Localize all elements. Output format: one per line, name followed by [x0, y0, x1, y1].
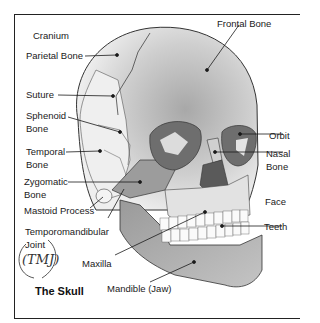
label-sphenoid-bone-1: Sphenoid — [26, 110, 66, 122]
label-face: Face — [265, 196, 286, 208]
label-zygomatic-bone-2: Bone — [24, 189, 46, 201]
label-temporal-bone-2: Bone — [26, 159, 48, 171]
label-temporal-bone-1: Temporal — [26, 146, 65, 158]
label-mandible: Mandible (Jaw) — [107, 283, 171, 295]
label-tmj-1: Temporomandibular — [25, 226, 109, 238]
label-nasal-bone-1: Nasal — [266, 148, 290, 160]
label-suture: Suture — [26, 89, 54, 101]
label-nasal-bone-2: Bone — [266, 161, 288, 173]
label-tmj-2: Joint — [25, 239, 45, 251]
label-frontal-bone: Frontal Bone — [217, 18, 271, 30]
label-zygomatic-bone-1: Zygomatic — [24, 176, 68, 188]
label-parietal-bone: Parietal Bone — [26, 50, 83, 62]
diagram-title: The Skull — [35, 285, 84, 297]
label-orbit: Orbit — [269, 130, 290, 142]
handwritten-tmj-note: (TMJ) — [22, 252, 59, 267]
label-teeth: Teeth — [264, 221, 287, 233]
label-cranium: Cranium — [33, 30, 69, 42]
label-maxilla: Maxilla — [82, 258, 112, 270]
label-sphenoid-bone-2: Bone — [26, 123, 48, 135]
label-mastoid-process: Mastoid Process — [24, 205, 94, 217]
